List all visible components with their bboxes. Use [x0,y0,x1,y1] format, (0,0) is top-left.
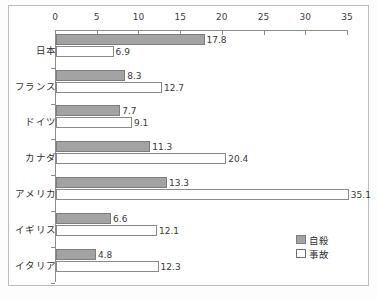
bar-value-suicide-3: 11.3 [152,142,172,152]
category-label-6: イタリア [15,258,56,272]
bar-suicide-3 [56,141,150,152]
bar-accident-6 [56,261,159,272]
bar-chart-plot: 05101520253035 日本17.86.9フランス8.312.7ドイツ7.… [0,0,378,300]
caption-sliver [100,295,372,300]
bar-value-accident-2: 9.1 [134,118,148,128]
y-tick-1 [51,104,55,105]
legend-label-suicide: 自殺 [309,233,329,247]
category-label-1: フランス [15,79,56,93]
x-tick-label-30: 30 [300,12,311,22]
x-tick-label-0: 0 [52,12,58,22]
bar-accident-0 [56,46,114,57]
y-tick-6 [51,283,55,284]
bar-value-accident-1: 12.7 [164,83,184,93]
legend-item-accident: 事故 [296,247,329,260]
bar-suicide-0 [56,34,205,45]
bar-value-accident-3: 20.4 [228,154,248,164]
x-tick-label-35: 35 [341,12,352,22]
bar-value-accident-4: 35.1 [351,190,371,200]
bar-accident-5 [56,225,157,236]
y-tick-3 [51,175,55,176]
x-tick-label-5: 5 [94,12,100,22]
bar-value-suicide-5: 6.6 [113,214,127,224]
category-label-3: カナダ [25,150,56,164]
bar-suicide-2 [56,105,120,116]
legend-swatch-accident [296,249,306,258]
bar-suicide-4 [56,177,167,188]
x-tick-label-20: 20 [216,12,227,22]
category-label-4: アメリカ [15,186,56,200]
bar-value-accident-6: 12.3 [161,262,181,272]
scanned-page: 05101520253035 日本17.86.9フランス8.312.7ドイツ7.… [0,0,378,300]
x-tick-35 [347,30,348,35]
category-label-5: イギリス [15,222,56,236]
bar-value-suicide-6: 4.8 [98,250,112,260]
y-tick-2 [51,139,55,140]
chart-legend: 自殺 事故 [296,233,329,261]
bar-value-suicide-0: 17.8 [207,35,227,45]
x-tick-30 [305,30,306,35]
legend-item-suicide: 自殺 [296,233,329,246]
bar-value-accident-5: 12.1 [159,226,179,236]
bar-value-suicide-1: 8.3 [127,71,141,81]
x-tick-label-15: 15 [174,12,185,22]
bar-value-suicide-4: 13.3 [169,178,189,188]
y-tick-0 [51,68,55,69]
legend-label-accident: 事故 [309,247,329,261]
bar-suicide-1 [56,70,125,81]
bar-value-accident-0: 6.9 [116,47,130,57]
bar-accident-3 [56,153,226,164]
category-label-0: 日本 [36,43,56,57]
x-tick-label-10: 10 [133,12,144,22]
legend-swatch-suicide [296,235,306,244]
y-tick-4 [51,211,55,212]
category-label-2: ドイツ [25,114,56,128]
x-tick-label-25: 25 [258,12,269,22]
bar-suicide-6 [56,249,96,260]
bar-accident-1 [56,82,162,93]
x-axis-line [55,30,347,31]
bar-accident-2 [56,117,132,128]
x-tick-25 [264,30,265,35]
bar-accident-4 [56,189,349,200]
bar-suicide-5 [56,213,111,224]
bar-value-suicide-2: 7.7 [122,106,136,116]
y-tick-5 [51,247,55,248]
